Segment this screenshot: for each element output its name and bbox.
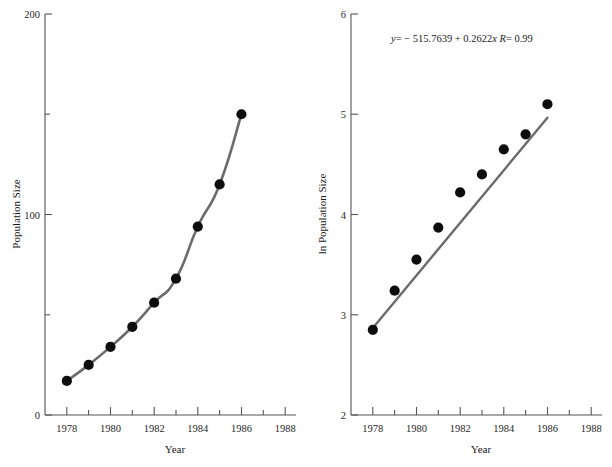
linear-data-point-1978 bbox=[62, 376, 72, 386]
log-data-point-1985 bbox=[521, 129, 531, 139]
log-data-point-1979 bbox=[390, 286, 400, 296]
linear-xtick-label-1982: 1982 bbox=[144, 423, 165, 434]
log-xtick-label-1982: 1982 bbox=[450, 423, 471, 434]
linear-ytick-label-200: 200 bbox=[24, 9, 40, 20]
log-ytick-label-2: 2 bbox=[341, 410, 346, 421]
linear-data-point-1983 bbox=[171, 274, 181, 284]
linear-xaxis-title: Year bbox=[165, 443, 186, 455]
linear-ytick-label-100: 100 bbox=[24, 210, 40, 221]
linear-data-point-1982 bbox=[149, 298, 159, 308]
log-data-point-1982 bbox=[455, 187, 465, 197]
log-ytick-label-6: 6 bbox=[341, 9, 346, 20]
linear-xtick-label-1984: 1984 bbox=[187, 423, 209, 434]
log-data-point-1986 bbox=[542, 99, 552, 109]
linear-series-line bbox=[67, 114, 242, 381]
regression-annotation: y= − 515.7639 + 0.2622x R= 0.99 bbox=[390, 33, 533, 44]
log-xaxis-title: Year bbox=[471, 443, 492, 455]
linear-data-point-1985 bbox=[215, 179, 225, 189]
figure-container: 200 100 0 1978 1980 1982 1984 1986 1988 bbox=[0, 0, 612, 467]
log-data-point-1983 bbox=[477, 169, 487, 179]
linear-data-point-1986 bbox=[236, 109, 246, 119]
left-panel-linear-plot: 200 100 0 1978 1980 1982 1984 1986 1988 bbox=[0, 0, 306, 467]
linear-yaxis-title: Population Size bbox=[10, 179, 22, 248]
log-regression-line bbox=[373, 118, 548, 328]
log-data-point-1984 bbox=[499, 144, 509, 154]
linear-series-markers bbox=[62, 109, 247, 386]
log-xtick-label-1984: 1984 bbox=[493, 423, 515, 434]
linear-xtick-label-1986: 1986 bbox=[231, 423, 252, 434]
linear-data-point-1979 bbox=[84, 360, 94, 370]
regression-equation-body: = − 515.7639 + 0.2622 bbox=[396, 33, 493, 44]
linear-data-point-1981 bbox=[127, 322, 137, 332]
log-ytick-label-5: 5 bbox=[341, 109, 346, 120]
log-xtick-label-1980: 1980 bbox=[406, 423, 427, 434]
log-data-point-1981 bbox=[433, 222, 443, 232]
log-data-point-1980 bbox=[411, 255, 421, 265]
linear-data-point-1984 bbox=[193, 221, 203, 231]
regression-r-value: = 0.99 bbox=[506, 33, 533, 44]
right-panel-log-plot: 6 5 4 3 2 1978 1980 1982 1984 1986 1988 … bbox=[306, 0, 612, 467]
linear-data-point-1980 bbox=[105, 342, 115, 352]
linear-ytick-label-0: 0 bbox=[35, 410, 40, 421]
log-data-point-1978 bbox=[368, 325, 378, 335]
log-xtick-label-1988: 1988 bbox=[581, 423, 602, 434]
linear-xtick-label-1978: 1978 bbox=[56, 423, 77, 434]
log-ytick-label-3: 3 bbox=[341, 310, 346, 321]
log-ytick-label-4: 4 bbox=[341, 210, 347, 221]
linear-xtick-label-1988: 1988 bbox=[275, 423, 296, 434]
log-yaxis-title: ln Population Size bbox=[316, 174, 328, 255]
log-xtick-label-1978: 1978 bbox=[362, 423, 383, 434]
linear-plot-svg: 200 100 0 1978 1980 1982 1984 1986 1988 bbox=[0, 0, 306, 467]
linear-xtick-label-1980: 1980 bbox=[100, 423, 121, 434]
log-xtick-label-1986: 1986 bbox=[537, 423, 558, 434]
log-plot-svg: 6 5 4 3 2 1978 1980 1982 1984 1986 1988 … bbox=[306, 0, 612, 467]
